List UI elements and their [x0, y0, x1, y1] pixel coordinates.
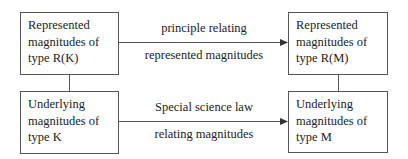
box-represented-magnitudes-rk: Represented magnitudes of type R(K) — [20, 12, 119, 75]
box-text-line: type M — [296, 129, 387, 146]
box-text-line: Underlying — [296, 96, 387, 113]
box-text-line: magnitudes of — [296, 34, 387, 51]
box-represented-magnitudes-rm: Represented magnitudes of type R(M) — [288, 12, 388, 75]
bottom-arrow-label-above: Special science law — [119, 100, 289, 114]
box-text-line: magnitudes of — [28, 113, 118, 130]
top-arrow-label-above: principle relating — [119, 21, 289, 35]
top-arrow-label-below: represented magnitudes — [119, 48, 289, 62]
box-text-line: Represented — [296, 17, 387, 34]
box-text-line: Represented — [28, 17, 118, 34]
box-text-line: magnitudes of — [296, 113, 387, 130]
box-underlying-magnitudes-k: Underlying magnitudes of type K — [20, 91, 119, 154]
box-text-line: Underlying — [28, 96, 118, 113]
box-underlying-magnitudes-m: Underlying magnitudes of type M — [288, 91, 388, 153]
box-text-line: type R(K) — [28, 50, 118, 67]
box-text-line: type R(M) — [296, 50, 387, 67]
box-text-line: magnitudes of — [28, 34, 118, 51]
box-text-line: type K — [28, 129, 118, 146]
bottom-arrow-label-below: relating magnitudes — [119, 127, 289, 141]
